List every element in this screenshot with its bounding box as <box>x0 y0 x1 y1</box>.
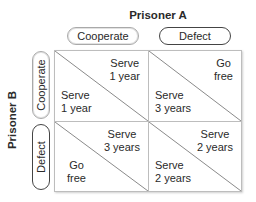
payoff-a: Serve 1 year <box>109 57 140 83</box>
payoff-matrix: Serve 1 year Serve 1 year Go free Serve … <box>54 50 242 192</box>
payoff-a-line1: Serve <box>109 57 140 70</box>
payoff-b-line2: 2 years <box>155 172 191 185</box>
cell-defect-defect: Serve 2 years Serve 2 years <box>149 122 241 191</box>
row-header-cooperate-label: Cooperate <box>35 59 47 110</box>
row-header-defect-label: Defect <box>35 141 47 173</box>
row-header-cooperate: Cooperate <box>32 51 50 119</box>
payoff-a-line1: Serve <box>197 128 233 141</box>
prisoner-b-title: Prisoner B <box>3 50 21 190</box>
column-header-cooperate: Cooperate <box>67 27 139 45</box>
payoff-b-line1: Serve <box>155 159 191 172</box>
column-header-defect: Defect <box>159 27 231 45</box>
payoff-a: Go free <box>214 57 233 83</box>
payoff-b: Serve 1 year <box>61 89 92 115</box>
payoff-a-line2: free <box>214 70 233 83</box>
payoff-a: Serve 3 years <box>104 128 140 154</box>
payoff-a-line1: Serve <box>104 128 140 141</box>
cell-defect-cooperate: Serve 3 years Go free <box>55 122 149 191</box>
payoff-b: Serve 2 years <box>155 159 191 185</box>
payoff-a-line1: Go <box>214 57 233 70</box>
cell-cooperate-cooperate: Serve 1 year Serve 1 year <box>55 51 149 122</box>
cell-cooperate-defect: Go free Serve 3 years <box>149 51 241 122</box>
payoff-b-line1: Go <box>67 159 86 172</box>
payoff-b: Serve 3 years <box>155 89 191 115</box>
row-header-defect: Defect <box>32 124 50 190</box>
payoff-a: Serve 2 years <box>197 128 233 154</box>
prisoner-b-title-text: Prisoner B <box>6 91 18 149</box>
payoff-b-line1: Serve <box>155 89 191 102</box>
payoff-b: Go free <box>67 159 86 185</box>
payoff-a-line2: 2 years <box>197 141 233 154</box>
payoff-b-line2: 3 years <box>155 102 191 115</box>
payoff-a-line2: 3 years <box>104 141 140 154</box>
prisoner-a-title: Prisoner A <box>0 9 256 21</box>
payoff-b-line2: free <box>67 172 86 185</box>
payoff-b-line2: 1 year <box>61 102 92 115</box>
payoff-a-line2: 1 year <box>109 70 140 83</box>
payoff-b-line1: Serve <box>61 89 92 102</box>
